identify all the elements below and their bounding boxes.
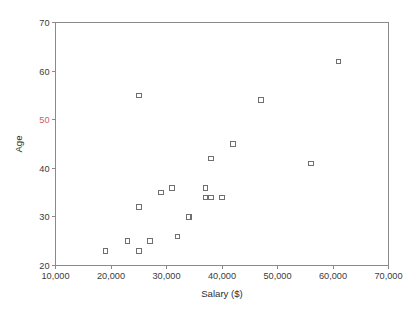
data-point-marker bbox=[136, 205, 141, 210]
y-tick-label: 50 bbox=[39, 115, 49, 125]
chart-canvas: 203040506070 10,00020,00030,00040,00050,… bbox=[0, 0, 406, 315]
x-tick-label: 10,000 bbox=[41, 271, 69, 281]
data-point-marker bbox=[125, 239, 130, 244]
y-axis-title: Age bbox=[13, 135, 24, 152]
data-point-marker bbox=[203, 185, 208, 190]
x-tick-label: 60,000 bbox=[319, 271, 347, 281]
data-point-marker bbox=[231, 142, 236, 147]
data-points-layer bbox=[103, 59, 341, 253]
data-point-marker bbox=[186, 215, 191, 220]
x-tick-label: 20,000 bbox=[97, 271, 125, 281]
data-point-marker bbox=[148, 239, 153, 244]
data-point-marker bbox=[220, 195, 225, 200]
y-tick-label: 40 bbox=[39, 164, 49, 174]
y-tick-label: 30 bbox=[39, 212, 49, 222]
data-point-marker bbox=[103, 249, 108, 254]
data-point-marker bbox=[259, 98, 264, 103]
data-point-marker bbox=[159, 190, 164, 195]
data-point-marker bbox=[209, 156, 214, 161]
x-tick-label: 30,000 bbox=[152, 271, 180, 281]
x-tick-label: 50,000 bbox=[263, 271, 291, 281]
x-tick-label: 70,000 bbox=[374, 271, 402, 281]
data-point-marker bbox=[336, 59, 341, 64]
y-tick-label: 60 bbox=[39, 67, 49, 77]
y-tick-label: 70 bbox=[39, 18, 49, 28]
x-axis-title: Salary ($) bbox=[201, 288, 243, 299]
y-tick-label: 20 bbox=[39, 261, 49, 271]
data-point-marker bbox=[136, 93, 141, 98]
data-point-marker bbox=[136, 249, 141, 254]
x-tick-label: 40,000 bbox=[208, 271, 236, 281]
data-point-marker bbox=[203, 195, 208, 200]
data-point-marker bbox=[209, 195, 214, 200]
data-point-marker bbox=[175, 234, 180, 239]
x-axis-ticks: 10,00020,00030,00040,00050,00060,00070,0… bbox=[41, 266, 402, 282]
data-point-marker bbox=[170, 185, 175, 190]
scatter-chart: 203040506070 10,00020,00030,00040,00050,… bbox=[0, 0, 406, 315]
data-point-marker bbox=[309, 161, 314, 166]
y-axis-ticks: 203040506070 bbox=[39, 18, 55, 271]
